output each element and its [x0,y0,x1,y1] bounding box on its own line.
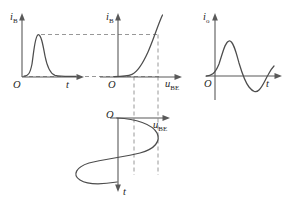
panel-base-current-waveform: iB O t [10,11,84,90]
panel1-x-axis-label: t [66,79,70,90]
panel-input-voltage-waveform: O uBE t [76,109,170,197]
panel-output-current-waveform: io O t [203,11,282,100]
panel1-origin-label: O [13,79,21,90]
physics-figure: iB O t iB O uBE [0,0,289,205]
panel4-sine-curve [76,118,158,184]
panel2-y-axis-arrow [115,13,121,21]
panel3-bipolar-curve [206,41,274,92]
panel4-x-axis-arrow [163,115,171,121]
panel-input-characteristic: iB O uBE [100,11,182,92]
panel3-y-axis-label: io [203,11,210,25]
panel4-origin-label: O [106,109,114,120]
panel2-origin-label: O [108,79,116,90]
panel3-y-axis-arrow [212,13,218,21]
panel4-t-axis-label: t [123,186,127,197]
panel3-x-axis-label: t [266,78,270,89]
panel2-exponential-curve [114,15,163,77]
panel1-pulse-curve [24,35,76,77]
panel3-x-axis-arrow [275,73,283,79]
panel2-x-axis-label: uBE [165,78,179,92]
panel1-y-axis-label: iB [10,11,18,25]
panel1-x-axis-arrow [77,74,85,80]
construction-lines [22,35,160,176]
panel2-y-axis-label: iB [106,11,114,25]
panel4-t-axis-arrow [115,185,121,193]
figure-root: iB O t iB O uBE [0,0,289,205]
panel2-x-axis-arrow [175,74,183,80]
panel1-y-axis-arrow [19,13,25,21]
panel3-origin-label: O [204,78,212,89]
